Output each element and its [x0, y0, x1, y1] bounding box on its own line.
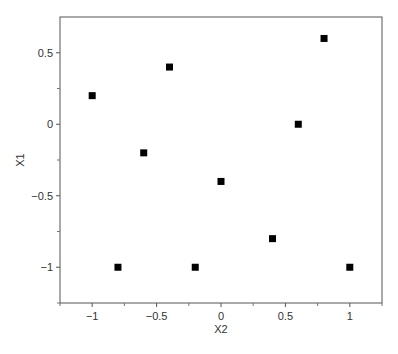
square-marker: [140, 149, 147, 156]
plot-frame: [60, 17, 382, 303]
square-marker: [166, 64, 173, 71]
y-axis-label: X1: [14, 153, 26, 166]
x-tick-label: −1: [86, 310, 99, 322]
square-marker: [218, 178, 225, 185]
x-tick-label: 0.5: [278, 310, 293, 322]
square-marker: [346, 264, 353, 271]
y-axis-ticks: 0.50−0.5−1: [31, 47, 60, 303]
x-axis-label: X2: [214, 323, 227, 335]
y-tick-label: 0.5: [38, 47, 53, 59]
x-axis-ticks: −1−0.500.51: [60, 303, 382, 322]
scatter-chart: −1−0.500.51 0.50−0.5−1 X2 X1: [0, 0, 398, 354]
square-marker: [269, 235, 276, 242]
square-marker: [192, 264, 199, 271]
y-tick-label: −1: [40, 261, 53, 273]
y-tick-label: −0.5: [31, 190, 53, 202]
square-marker: [321, 35, 328, 42]
x-tick-label: −0.5: [146, 310, 168, 322]
square-marker: [295, 121, 302, 128]
square-marker: [89, 92, 96, 99]
y-tick-label: 0: [47, 118, 53, 130]
x-tick-label: 0: [218, 310, 224, 322]
square-marker: [114, 264, 121, 271]
x-tick-label: 1: [347, 310, 353, 322]
